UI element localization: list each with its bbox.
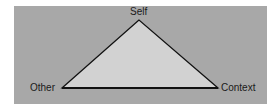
vertex-label-context: Context xyxy=(221,83,255,93)
vertex-label-other: Other xyxy=(30,83,55,93)
vertex-label-self: Self xyxy=(130,7,147,17)
diagram-panel: Self Other Context xyxy=(14,6,267,104)
